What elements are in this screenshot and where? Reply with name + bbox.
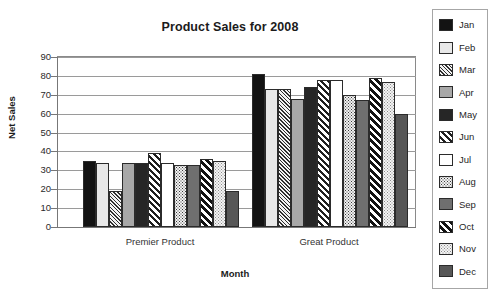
legend-label: May	[459, 110, 477, 120]
bar-aug-great	[343, 95, 356, 227]
legend-swatch-aug-icon	[439, 176, 453, 188]
bar-jan-great	[252, 74, 265, 227]
legend-label: Aug	[459, 177, 476, 187]
bar-may-premier	[135, 163, 148, 227]
bar-feb-great	[265, 89, 278, 227]
bar-mar-great	[278, 89, 291, 227]
bar-jul-great	[330, 80, 343, 227]
legend-item-jul[interactable]: Jul	[439, 148, 487, 170]
x-axis-title: Month	[55, 268, 415, 279]
y-axis-tick-label: 10	[17, 203, 51, 213]
bar-sep-great	[356, 100, 369, 227]
legend-swatch-apr-icon	[439, 86, 453, 98]
legend-swatch-jan-icon	[439, 19, 453, 31]
legend-label: Jul	[459, 155, 471, 165]
bar-dec-great	[395, 114, 408, 227]
bar-nov-great	[382, 82, 395, 227]
legend-item-jun[interactable]: Jun	[439, 126, 487, 148]
y-axis-tick-label: 30	[17, 165, 51, 175]
legend-swatch-may-icon	[439, 109, 453, 121]
y-axis-tick-label: 70	[17, 90, 51, 100]
legend-item-mar[interactable]: Mar	[439, 59, 487, 81]
y-axis-tick-label: 90	[17, 52, 51, 62]
category-label-premier-product: Premier Product	[105, 236, 215, 247]
legend-swatch-jul-icon	[439, 154, 453, 166]
bar-apr-premier	[122, 163, 135, 227]
bar-dec-premier	[226, 191, 239, 227]
y-axis-title: Net Sales	[6, 83, 17, 153]
bar-nov-premier	[213, 161, 226, 227]
legend-item-apr[interactable]: Apr	[439, 81, 487, 103]
legend-swatch-nov-icon	[439, 243, 453, 255]
legend-label: Apr	[459, 88, 474, 98]
bar-jul-premier	[161, 163, 174, 227]
y-axis-tick-label: 80	[17, 71, 51, 81]
plot-area	[57, 57, 416, 228]
y-axis-tick-label: 50	[17, 128, 51, 138]
legend-swatch-jun-icon	[439, 131, 453, 143]
legend-swatch-oct-icon	[439, 221, 453, 233]
y-axis-tick-label: 40	[17, 146, 51, 156]
legend-item-oct[interactable]: Oct	[439, 216, 487, 238]
legend-item-jan[interactable]: Jan	[439, 14, 487, 36]
bar-chart: Product Sales for 2008 Net Sales Month 0…	[0, 0, 495, 297]
bar-aug-premier	[174, 165, 187, 227]
legend-item-dec[interactable]: Dec	[439, 260, 487, 282]
bar-oct-great	[369, 78, 382, 227]
legend-item-sep[interactable]: Sep	[439, 193, 487, 215]
y-axis-tick-label: 20	[17, 184, 51, 194]
y-axis-tick-label: 0	[17, 222, 51, 232]
bar-mar-premier	[109, 191, 122, 227]
bar-jun-premier	[148, 153, 161, 227]
legend-swatch-feb-icon	[439, 42, 453, 54]
bar-may-great	[304, 87, 317, 227]
legend-item-nov[interactable]: Nov	[439, 238, 487, 260]
legend-swatch-sep-icon	[439, 198, 453, 210]
legend-item-aug[interactable]: Aug	[439, 171, 487, 193]
legend-label: Mar	[459, 65, 475, 75]
legend-label: Jan	[459, 20, 474, 30]
y-axis-tick-label: 60	[17, 109, 51, 119]
legend-swatch-mar-icon	[439, 64, 453, 76]
bars-layer	[58, 57, 416, 227]
legend-label: Oct	[459, 222, 474, 232]
bar-jun-great	[317, 80, 330, 227]
bar-sep-premier	[187, 165, 200, 227]
bar-feb-premier	[96, 163, 109, 227]
chart-title: Product Sales for 2008	[40, 20, 420, 34]
legend-label: Nov	[459, 244, 476, 254]
legend-item-feb[interactable]: Feb	[439, 36, 487, 58]
legend-swatch-dec-icon	[439, 265, 453, 277]
legend-label: Dec	[459, 267, 476, 277]
bar-apr-great	[291, 99, 304, 227]
legend-item-may[interactable]: May	[439, 104, 487, 126]
legend-label: Sep	[459, 200, 476, 210]
legend-label: Feb	[459, 43, 475, 53]
category-label-great-product: Great Product	[274, 236, 384, 247]
bar-oct-premier	[200, 159, 213, 227]
legend-label: Jun	[459, 132, 474, 142]
legend: JanFebMarAprMayJunJulAugSepOctNovDec	[432, 9, 488, 289]
bar-jan-premier	[83, 161, 96, 227]
